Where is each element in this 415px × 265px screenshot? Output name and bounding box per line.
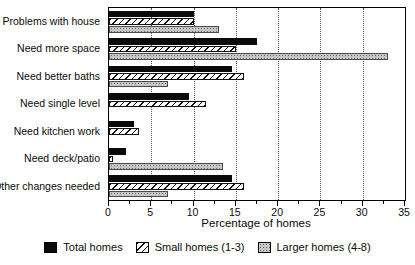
major-tick [193,201,194,206]
minor-tick [298,201,299,204]
major-tick [319,201,320,206]
bar-hatch [109,73,244,80]
bar-hatch [109,183,244,190]
bar-group [109,63,405,90]
bar-group [109,145,405,172]
bar-group [109,90,405,117]
bar-chart-figure: Problems with houseNeed more spaceNeed b… [0,0,415,265]
category-label: Need single level [0,90,104,118]
legend-item-small-homes: Small homes (1-3) [136,242,245,253]
legend-swatch-hatch [136,242,149,253]
bar-group [109,118,405,145]
bar-stipple [109,81,168,88]
bar-solid [109,175,232,182]
minor-tick [129,201,130,204]
bar-group [109,173,405,200]
major-tick [150,201,151,206]
tick-label: 0 [96,207,120,218]
bar-solid [109,121,134,128]
major-tick [404,201,405,206]
tick-label: 10 [181,207,205,218]
major-tick [362,201,363,206]
minor-tick [383,201,384,204]
tick-label: 20 [265,207,289,218]
tick-label: 30 [350,207,374,218]
bar-stipple [109,26,219,33]
bar-group [109,8,405,35]
major-tick [235,201,236,206]
bar-hatch [109,18,194,25]
bar-hatch [109,46,236,53]
category-label: Need deck/patio [0,145,104,173]
legend-item-larger-homes: Larger homes (4-8) [258,242,371,253]
minor-tick [214,201,215,204]
legend: Total homes Small homes (1-3) Larger hom… [0,239,415,255]
bar-solid [109,148,126,155]
category-label: Other changes needed [0,172,104,200]
plot-area [108,7,406,201]
legend-swatch-stipple [258,242,271,253]
legend-label-small-homes: Small homes (1-3) [155,242,245,253]
major-tick [277,201,278,206]
bar-solid [109,66,232,73]
legend-item-total-homes: Total homes [44,242,122,253]
x-axis-title: Percentage of homes [108,217,404,229]
minor-tick [171,201,172,204]
bar-solid [109,11,194,18]
bar-hatch [109,128,139,135]
bar-hatch [109,101,206,108]
bar-stipple [109,53,388,60]
bar-solid [109,38,257,45]
category-axis: Problems with houseNeed more spaceNeed b… [0,7,104,200]
major-tick [108,201,109,206]
bar-group [109,35,405,62]
legend-label-larger-homes: Larger homes (4-8) [277,242,371,253]
category-label: Need better baths [0,62,104,90]
minor-tick [341,201,342,204]
tick-label: 25 [307,207,331,218]
bar-stipple [109,191,168,198]
category-label: Need kitchen work [0,117,104,145]
tick-label: 35 [392,207,415,218]
bar-stipple [109,163,223,170]
legend-label-total-homes: Total homes [63,242,122,253]
bar-solid [109,93,189,100]
tick-label: 5 [138,207,162,218]
minor-tick [256,201,257,204]
category-label: Problems with house [0,7,104,35]
category-label: Need more space [0,35,104,63]
tick-label: 15 [223,207,247,218]
bar-hatch [109,156,113,163]
legend-swatch-solid [44,242,57,253]
